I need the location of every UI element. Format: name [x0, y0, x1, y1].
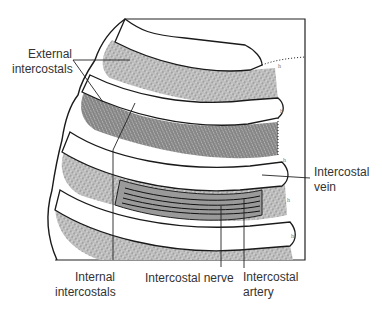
- svg-text:h: h: [291, 233, 294, 239]
- label-intercostal-artery: Intercostal artery: [243, 270, 298, 300]
- svg-text:h: h: [280, 108, 283, 114]
- label-intercostal-vein: Intercostal vein: [314, 165, 369, 195]
- label-external-intercostals: External intercostals: [12, 47, 72, 77]
- label-intercostal-nerve: Intercostal nerve: [145, 271, 234, 286]
- label-internal-intercostals: Internal intercostals: [55, 270, 115, 300]
- svg-text:h: h: [283, 157, 286, 163]
- svg-text:h: h: [287, 197, 290, 203]
- svg-text:h: h: [278, 63, 281, 69]
